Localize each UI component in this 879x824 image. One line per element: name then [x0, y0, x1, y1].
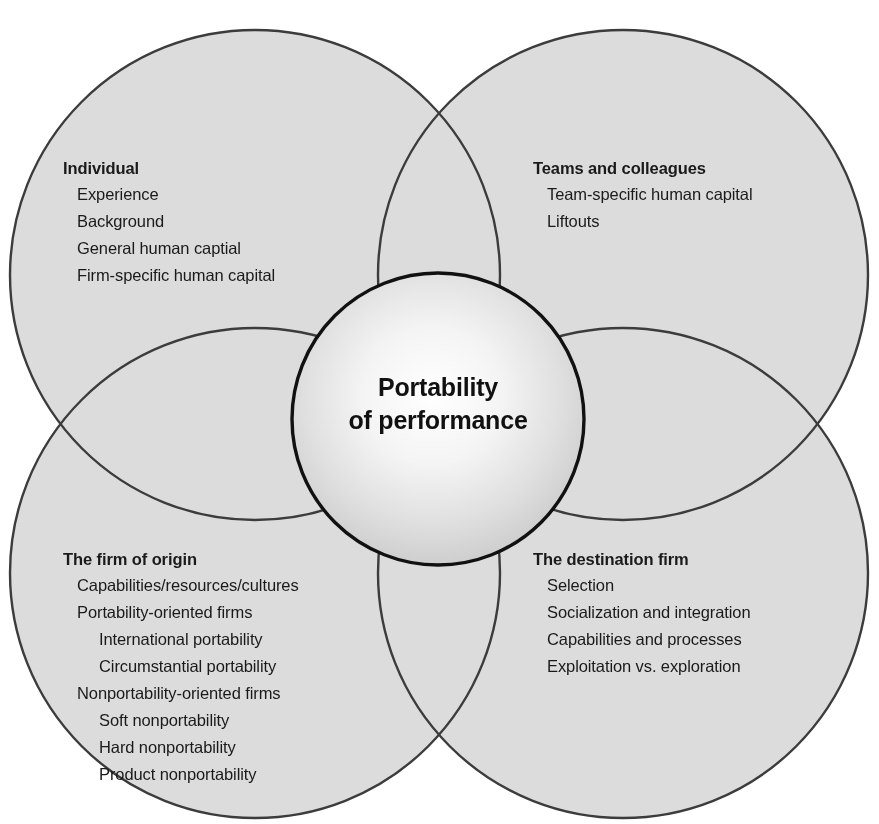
list-item: Team-specific human capital	[533, 181, 752, 208]
list-item: Firm-specific human capital	[63, 262, 275, 289]
group-list-teams-and-colleagues: Team-specific human capital Liftouts	[533, 181, 752, 235]
list-item: International portability	[63, 626, 299, 653]
group-heading-teams-and-colleagues: Teams and colleagues	[533, 155, 752, 181]
group-list-the-destination-firm: Selection Socialization and integration …	[533, 572, 751, 680]
group-the-firm-of-origin: The firm of origin Capabilities/resource…	[63, 546, 299, 788]
list-item: Exploitation vs. exploration	[533, 653, 751, 680]
list-item: Circumstantial portability	[63, 653, 299, 680]
list-item: Liftouts	[533, 208, 752, 235]
group-individual: Individual Experience Background General…	[63, 155, 275, 289]
list-item: Socialization and integration	[533, 599, 751, 626]
group-list-individual: Experience Background General human capt…	[63, 181, 275, 289]
list-item: Product nonportability	[63, 761, 299, 788]
list-item: Capabilities and processes	[533, 626, 751, 653]
group-list-the-firm-of-origin: Capabilities/resources/cultures Portabil…	[63, 572, 299, 788]
group-the-destination-firm: The destination firm Selection Socializa…	[533, 546, 751, 680]
center-label-line-1: Portability	[292, 371, 584, 404]
list-item: Capabilities/resources/cultures	[63, 572, 299, 599]
list-item: Hard nonportability	[63, 734, 299, 761]
group-heading-the-firm-of-origin: The firm of origin	[63, 546, 299, 572]
group-heading-the-destination-firm: The destination firm	[533, 546, 751, 572]
group-heading-individual: Individual	[63, 155, 275, 181]
list-item: Soft nonportability	[63, 707, 299, 734]
venn-diagram-canvas: Portability of performance Individual Ex…	[0, 0, 879, 824]
list-item: Experience	[63, 181, 275, 208]
list-item: Nonportability-oriented firms	[63, 680, 299, 707]
center-label: Portability of performance	[292, 371, 584, 437]
list-item: General human captial	[63, 235, 275, 262]
group-teams-and-colleagues: Teams and colleagues Team-specific human…	[533, 155, 752, 235]
center-label-line-2: of performance	[292, 404, 584, 437]
list-item: Selection	[533, 572, 751, 599]
list-item: Portability-oriented firms	[63, 599, 299, 626]
list-item: Background	[63, 208, 275, 235]
